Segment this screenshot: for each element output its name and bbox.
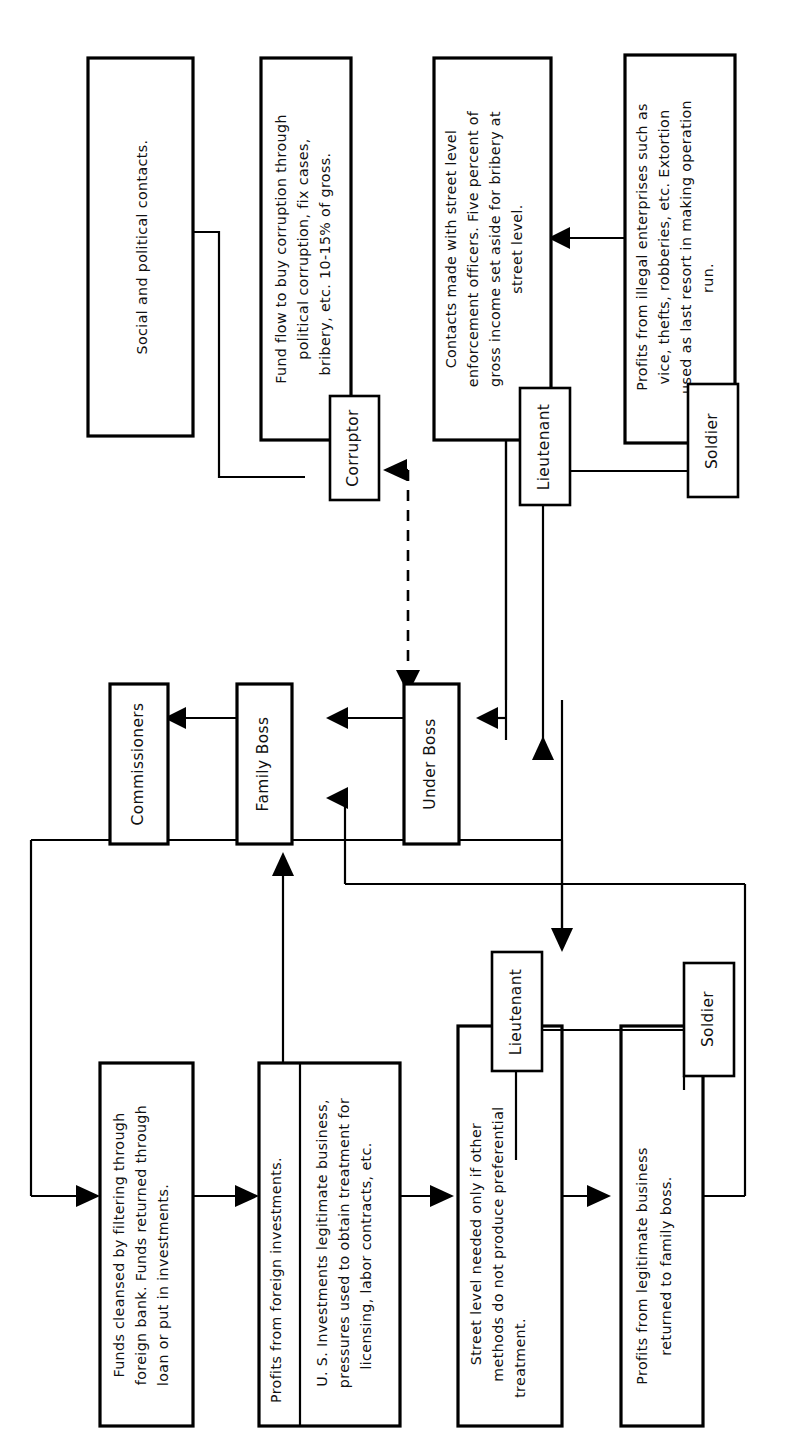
fund-flow-line-1: Fund flow to buy corruption through <box>273 114 289 384</box>
node-street-level-needed[interactable]: Street level needed only if other method… <box>458 1026 562 1426</box>
social-contacts-label: Social and political contacts. <box>134 140 150 355</box>
illegal-profits-line-3: used as last resort in making operation <box>678 100 694 394</box>
flowchart-canvas: Social and political contacts. Fund flow… <box>0 0 810 1451</box>
soldier-legitimate-label: Soldier <box>699 991 717 1047</box>
street-level-line-1: Street level needed only if other <box>468 1123 484 1366</box>
lieutenant-legitimate-label: Lieutenant <box>507 969 525 1056</box>
funds-cleansed-line-3: loan or put in investments. <box>155 1184 171 1386</box>
node-corruptor[interactable]: Corruptor <box>330 396 379 500</box>
contacts-street-line-3: gross income set aside for bribery at <box>487 111 503 387</box>
us-investments-line-1: U. S. Investments legitimate business, <box>314 1099 330 1387</box>
us-investments-line-3: licensing, labor contracts, etc. <box>358 1142 374 1369</box>
node-lieutenant-illegal[interactable]: Lieutenant <box>520 388 570 505</box>
node-social-contacts[interactable]: Social and political contacts. <box>88 58 193 436</box>
corruptor-label: Corruptor <box>344 409 362 487</box>
lieutenant-illegal-label: Lieutenant <box>535 404 553 491</box>
node-funds-cleansed[interactable]: Funds cleansed by filtering through fore… <box>100 1063 193 1426</box>
contacts-street-line-2: enforcement officers. Five percent of <box>465 110 481 387</box>
node-family-boss[interactable]: Family Boss <box>237 684 292 844</box>
illegal-profits-line-2: vice, thefts, robberies, etc. Extortion <box>656 109 672 384</box>
fund-flow-line-2: political corruption, fix cases, <box>295 138 311 359</box>
node-fund-flow[interactable]: Fund flow to buy corruption through poli… <box>261 58 351 440</box>
contacts-street-line-1: Contacts made with street level <box>443 130 459 369</box>
node-soldier-legitimate[interactable]: Soldier <box>684 963 734 1076</box>
illegal-profits-line-1: Profits from illegal enterprises such as <box>634 103 650 391</box>
soldier-illegal-label: Soldier <box>703 413 721 469</box>
funds-cleansed-line-2: foreign bank. Funds returned through <box>133 1105 149 1385</box>
illegal-profits-line-4: run. <box>700 263 716 293</box>
legit-profits-line-2: returned to family boss. <box>658 1176 674 1355</box>
contacts-street-line-4: street level. <box>509 204 525 293</box>
node-commissioners[interactable]: Commissioners <box>110 684 168 844</box>
funds-cleansed-line-1: Funds cleansed by filtering through <box>111 1112 127 1377</box>
street-level-line-2: methods do not produce preferential <box>490 1106 506 1381</box>
flowchart-svg: Social and political contacts. Fund flow… <box>0 0 810 1451</box>
under-boss-label: Under Boss <box>421 718 439 810</box>
family-boss-label: Family Boss <box>254 717 272 812</box>
node-contacts-street-level[interactable]: Contacts made with street level enforcem… <box>434 58 551 440</box>
legit-profits-line-1: Profits from legitimate business <box>634 1147 650 1385</box>
foreign-profits-label: Profits from foreign investments. <box>268 1157 284 1403</box>
node-legitimate-business-profits[interactable]: Profits from legitimate business returne… <box>621 1026 703 1426</box>
node-soldier-illegal[interactable]: Soldier <box>688 384 738 497</box>
commissioners-label: Commissioners <box>129 703 147 826</box>
fund-flow-line-3: bribery, etc. 10-15% of gross. <box>317 153 333 376</box>
node-under-boss[interactable]: Under Boss <box>404 684 459 844</box>
node-foreign-investment-profits[interactable]: Profits from foreign investments. U. S. … <box>259 1063 400 1426</box>
node-lieutenant-legitimate[interactable]: Lieutenant <box>492 952 542 1071</box>
street-level-line-3: treatment. <box>512 1318 528 1398</box>
us-investments-line-2: pressures used to obtain treatment for <box>336 1098 352 1388</box>
